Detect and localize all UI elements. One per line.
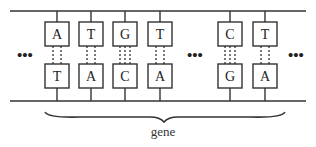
base-pair: TA — [253, 11, 277, 101]
dna-gene-diagram: ATTAGCTACGTA ••• ••• ••• gene — [0, 0, 316, 147]
gene-label: gene — [151, 124, 176, 139]
ellipsis-middle: ••• — [187, 47, 203, 63]
top-base-letter: A — [52, 27, 63, 42]
top-base-letter: C — [225, 27, 234, 42]
base-pair: AT — [45, 11, 69, 101]
bottom-base-letter: A — [86, 69, 97, 84]
ellipsis-left: ••• — [17, 47, 33, 63]
ellipsis-right: ••• — [288, 47, 304, 63]
top-base-letter: T — [87, 27, 96, 42]
bottom-base-letter: C — [120, 69, 129, 84]
base-pair: TA — [148, 11, 172, 101]
top-base-letter: G — [120, 27, 130, 42]
gene-brace — [45, 112, 285, 122]
bottom-base-letter: A — [155, 69, 166, 84]
base-pair: CG — [218, 11, 242, 101]
base-pair: TA — [79, 11, 103, 101]
bottom-base-letter: T — [53, 69, 62, 84]
bottom-base-letter: A — [260, 69, 271, 84]
top-base-letter: T — [261, 27, 270, 42]
base-pair: GC — [113, 11, 137, 101]
bottom-base-letter: G — [225, 69, 235, 84]
top-base-letter: T — [156, 27, 165, 42]
